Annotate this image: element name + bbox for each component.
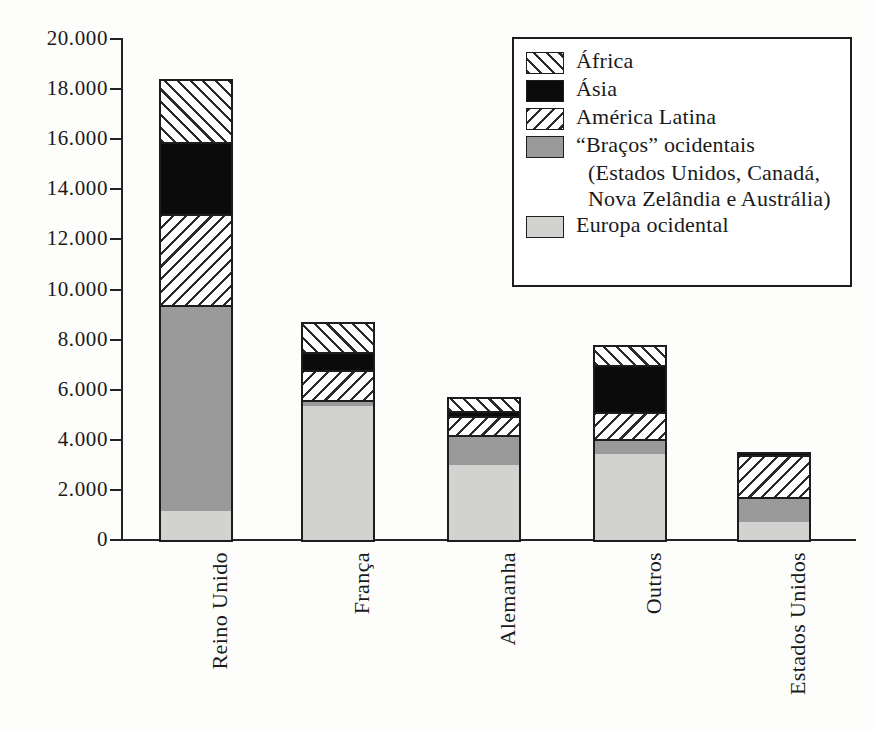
- segment-divider: [303, 322, 373, 324]
- segment-africa: [161, 79, 231, 142]
- x-axis-label: Reino Unido: [207, 552, 233, 669]
- segment-divider: [303, 352, 373, 354]
- segment-divider: [595, 345, 665, 347]
- segment-bracos-ocidentais: [595, 439, 665, 454]
- chart-legend: ÁfricaÁsiaAmérica Latina“Braços” ocident…: [512, 37, 852, 287]
- y-tick-mark: [110, 188, 121, 190]
- legend-item-label: África: [576, 48, 633, 74]
- y-tick-mark: [110, 88, 121, 90]
- segment-bracos-ocidentais: [739, 497, 809, 522]
- legend-item[interactable]: América Latina: [526, 104, 840, 130]
- segment-asia: [161, 142, 231, 215]
- y-tick-label: 6.000: [12, 379, 108, 400]
- legend-item[interactable]: África: [526, 48, 840, 74]
- legend-item-label: “Braços” ocidentais: [576, 132, 755, 158]
- segment-divider: [303, 370, 373, 372]
- legend-item-label: Europa ocidental: [576, 212, 729, 238]
- y-tick-mark: [110, 138, 121, 140]
- segment-divider: [739, 455, 809, 457]
- segment-divider: [739, 497, 809, 499]
- legend-item-subline: Nova Zelândia e Austrália): [588, 186, 840, 212]
- legend-item[interactable]: Europa ocidental: [526, 212, 840, 238]
- stacked-bar-chart: 20.00018.00016.00014.00012.00010.0008.00…: [0, 0, 876, 732]
- x-axis-label: França: [349, 552, 375, 614]
- segment-america-latina: [303, 370, 373, 400]
- segment-divider: [161, 79, 231, 81]
- bar-outros: [593, 345, 667, 542]
- segment-africa: [303, 322, 373, 352]
- segment-divider: [739, 452, 809, 454]
- y-tick-label: 14.000: [12, 178, 108, 199]
- y-tick-mark: [110, 489, 121, 491]
- y-tick-mark: [110, 238, 121, 240]
- y-tick-mark: [110, 289, 121, 291]
- legend-item-subline: (Estados Unidos, Canadá,: [588, 160, 840, 186]
- segment-divider: [449, 416, 519, 418]
- y-tick-mark: [110, 539, 121, 541]
- africa-swatch: [526, 52, 564, 74]
- segment-divider: [161, 305, 231, 307]
- segment-divider: [595, 412, 665, 414]
- y-tick-mark: [110, 389, 121, 391]
- segment-divider: [161, 142, 231, 144]
- y-tick-label: 8.000: [12, 329, 108, 350]
- y-tick-mark: [110, 439, 121, 441]
- segment-asia: [739, 452, 809, 455]
- segment-america-latina: [739, 455, 809, 498]
- y-tick-label: 4.000: [12, 429, 108, 450]
- segment-asia: [595, 365, 665, 413]
- y-tick-label: 12.000: [12, 228, 108, 249]
- y-axis-line: [121, 38, 123, 541]
- segment-america-latina: [161, 214, 231, 304]
- y-tick-label: 0: [12, 529, 108, 550]
- legend-item-label: América Latina: [576, 104, 716, 130]
- bar-frança: [301, 322, 375, 542]
- x-axis-label: Estados Unidos: [785, 552, 811, 695]
- segment-divider: [449, 411, 519, 413]
- legend-item-label: Ásia: [576, 76, 617, 102]
- segment-america-latina: [595, 412, 665, 438]
- y-tick-mark: [110, 38, 121, 40]
- segment-asia: [449, 411, 519, 416]
- x-axis-label: Outros: [641, 552, 667, 614]
- y-tick-label: 18.000: [12, 78, 108, 99]
- segment-bracos-ocidentais: [161, 305, 231, 512]
- segment-bracos-ocidentais: [303, 400, 373, 406]
- y-tick-label: 10.000: [12, 279, 108, 300]
- bar-reino-unido: [159, 79, 233, 542]
- asia-swatch: [526, 80, 564, 102]
- x-axis-label: Alemanha: [495, 552, 521, 646]
- segment-europa-ocidental: [449, 465, 519, 540]
- y-tick-label: 2.000: [12, 479, 108, 500]
- segment-divider: [449, 435, 519, 437]
- segment-bracos-ocidentais: [449, 435, 519, 465]
- segment-africa: [449, 397, 519, 411]
- segment-divider: [161, 214, 231, 216]
- america-latina-swatch: [526, 108, 564, 130]
- segment-africa: [595, 345, 665, 365]
- segment-europa-ocidental: [161, 511, 231, 540]
- segment-divider: [449, 397, 519, 399]
- bracos-swatch: [526, 136, 564, 158]
- segment-europa-ocidental: [303, 406, 373, 540]
- segment-america-latina: [449, 416, 519, 435]
- segment-divider: [595, 365, 665, 367]
- legend-item[interactable]: “Braços” ocidentais: [526, 132, 840, 158]
- y-tick-mark: [110, 339, 121, 341]
- europa-swatch: [526, 216, 564, 238]
- segment-asia: [303, 352, 373, 370]
- segment-europa-ocidental: [739, 522, 809, 540]
- y-tick-label: 20.000: [12, 28, 108, 49]
- segment-divider: [595, 439, 665, 441]
- legend-item[interactable]: Ásia: [526, 76, 840, 102]
- bar-estados-unidos: [737, 452, 811, 542]
- segment-europa-ocidental: [595, 454, 665, 540]
- bar-alemanha: [447, 397, 521, 542]
- y-tick-label: 16.000: [12, 128, 108, 149]
- segment-divider: [303, 400, 373, 402]
